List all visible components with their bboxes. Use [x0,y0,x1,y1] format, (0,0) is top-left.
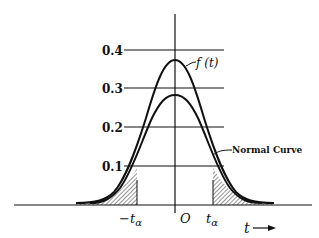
figure-canvas: 0.4 0.3 0.2 0.1 f (t) Normal Curve −tα O… [0,0,319,238]
t-alpha-label: tα [206,211,218,228]
neg-t-alpha-label: −tα [119,211,142,228]
f-t-label: f (t) [195,56,219,70]
y-tick-0-1: 0.1 [102,160,123,174]
normal-curve-label: Normal Curve [232,145,303,155]
t-axis-label: t [244,220,250,236]
f-t-leader [186,62,196,66]
right-arrow-icon [253,225,276,231]
origin-label: O [180,211,191,226]
y-tick-0-4: 0.4 [102,44,123,58]
y-tick-0-2: 0.2 [102,121,123,135]
y-tick-0-3: 0.3 [102,82,123,96]
